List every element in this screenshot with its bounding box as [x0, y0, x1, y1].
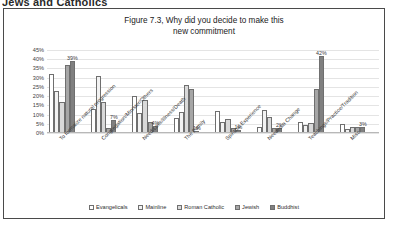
legend-item[interactable]: Jewish: [235, 204, 259, 210]
figure-frame: Figure 7.3, Why did you decide to make t…: [3, 8, 385, 219]
legend-label: Roman Catholic: [184, 204, 224, 210]
bar-group: 39%: [49, 50, 75, 133]
legend-item[interactable]: Mainline: [138, 204, 166, 210]
legend-label: Evangelicals: [96, 204, 127, 210]
chart-legend: EvangelicalsMainlineRoman CatholicJewish…: [4, 204, 384, 210]
page-header-text: Jews and Catholics: [2, 0, 108, 8]
bar-group: 2%: [257, 50, 283, 133]
x-axis-line: [47, 132, 379, 133]
y-axis-tick-label: 0%: [36, 130, 44, 136]
legend-label: Jewish: [242, 204, 259, 210]
y-axis-tick-label: 30%: [33, 75, 44, 81]
bar-group: 42%: [298, 50, 324, 133]
legend-swatch: [138, 205, 143, 210]
chart-area: Figure 7.3, Why did you decide to make t…: [4, 9, 384, 218]
y-axis-tick-label: 20%: [33, 93, 44, 99]
y-axis-tick-label: 45%: [33, 47, 44, 53]
legend-swatch: [177, 205, 182, 210]
legend-item[interactable]: Buddhist: [270, 204, 299, 210]
gridline: [47, 133, 379, 134]
bar-group: 1%: [215, 50, 241, 133]
legend-label: Mainline: [145, 204, 166, 210]
bar-value-label: 39%: [67, 55, 78, 61]
legend-swatch: [235, 205, 240, 210]
y-axis-tick-label: 10%: [33, 112, 44, 118]
bar-group: 1%: [174, 50, 200, 133]
chart-title: Figure 7.3, Why did you decide to make t…: [94, 15, 314, 37]
y-axis-tick-label: 5%: [36, 121, 44, 127]
legend-item[interactable]: Evangelicals: [89, 204, 127, 210]
y-axis-tick-label: 25%: [33, 84, 44, 90]
y-axis-tick-label: 15%: [33, 102, 44, 108]
legend-label: Buddhist: [277, 204, 299, 210]
bar-value-label: 42%: [316, 50, 327, 56]
legend-swatch: [270, 205, 275, 210]
chart-title-line-1: Figure 7.3, Why did you decide to make t…: [94, 15, 314, 26]
chart-title-line-2: new commitment: [94, 26, 314, 37]
y-axis-tick-label: 35%: [33, 65, 44, 71]
y-axis-tick-label: 40%: [33, 56, 44, 62]
legend-swatch: [89, 205, 94, 210]
bar-value-label: 3%: [359, 121, 367, 127]
legend-item[interactable]: Roman Catholic: [177, 204, 224, 210]
